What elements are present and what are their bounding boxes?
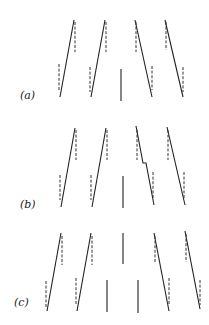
rising-element xyxy=(46,233,62,311)
diagram: (a) (b) xyxy=(0,0,209,325)
panel-label-a: (a) xyxy=(20,89,35,102)
falling-element xyxy=(135,20,152,97)
rising-element xyxy=(91,128,107,207)
falling-element xyxy=(185,231,200,309)
falling-element xyxy=(165,20,183,97)
rising-element xyxy=(76,233,92,311)
panel-label-b: (b) xyxy=(20,198,36,211)
panel-b: (b) xyxy=(20,126,185,211)
rising-element xyxy=(90,20,106,97)
panel-a: (a) xyxy=(20,20,183,102)
falling-kinked-element xyxy=(136,126,154,205)
rising-element xyxy=(59,20,75,97)
panel-c: (c) xyxy=(14,231,200,313)
falling-element xyxy=(167,127,185,205)
falling-element xyxy=(154,233,169,311)
panel-label-c: (c) xyxy=(14,296,29,309)
rising-element xyxy=(60,128,76,207)
